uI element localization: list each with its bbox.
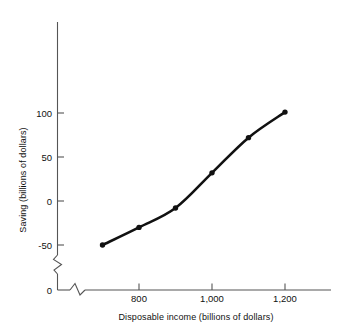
saving-vs-disposable-income-chart: 100 50 0 -50 Saving (billions of dollars… [0, 0, 347, 328]
data-point [209, 170, 214, 175]
y-tick-label-0: 0 [47, 196, 52, 207]
y-tick-label-minus50: -50 [38, 240, 52, 251]
x-axis-title: Disposable income (billions of dollars) [119, 312, 274, 322]
data-point [100, 242, 105, 247]
x-tick-label-800: 800 [131, 293, 147, 304]
data-point [136, 225, 141, 230]
x-tick-label-1000: 1,000 [200, 293, 224, 304]
y-tick-label-50: 50 [41, 152, 52, 163]
chart-background [0, 0, 347, 328]
data-point [173, 205, 178, 210]
data-point [246, 135, 251, 140]
origin-tick-label: 0 [47, 285, 52, 296]
x-tick-label-1200: 1,200 [273, 293, 297, 304]
y-tick-label-100: 100 [36, 108, 52, 119]
data-point [282, 109, 287, 114]
y-axis-title: Saving (billions of dollars) [18, 127, 28, 232]
